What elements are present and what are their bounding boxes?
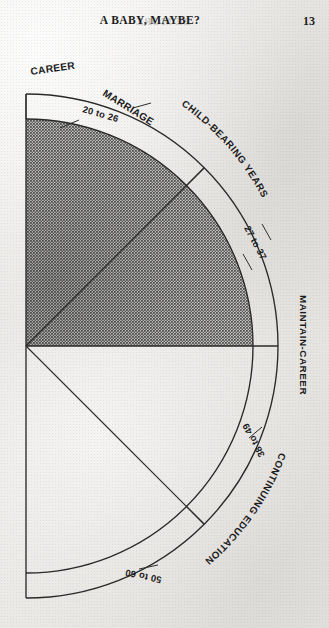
label-career: CAREER <box>30 60 76 77</box>
tick-lower-45 <box>186 506 204 524</box>
label-child-bearing-years: CHILD-BEARING YEARS <box>180 98 271 200</box>
ray-lower-45 <box>26 346 204 524</box>
age-band-20-26: 20 to 26 <box>81 103 120 124</box>
life-stages-fan-diagram: CAREER MARRIAGE CHILD-BEARING YEARS MAIN… <box>0 0 329 628</box>
leader-27to37-top <box>262 224 271 240</box>
age-band-38-49: 38 to 49 <box>240 421 267 459</box>
label-maintain-career: MAINTAIN-CAREER <box>298 295 309 395</box>
age-band-50-60: 50 to 60 <box>124 567 162 585</box>
leader-27to37-bottom <box>243 254 252 270</box>
label-child-bearing-years-path: CHILD-BEARING YEARS <box>180 98 271 200</box>
fan-diagram-svg: CAREER MARRIAGE CHILD-BEARING YEARS MAIN… <box>0 0 329 628</box>
book-page: BE MORE A BABY, MAYBE? 13 <box>0 0 329 628</box>
tick-upper-45 <box>186 168 204 186</box>
